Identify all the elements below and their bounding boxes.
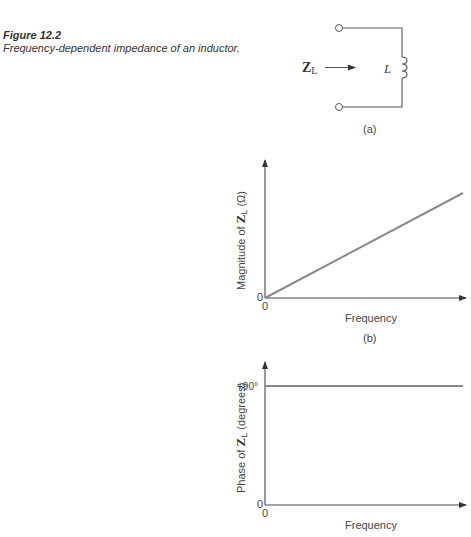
magnitude-line xyxy=(265,193,463,298)
y-axis-label: Phase of ZL (degrees) xyxy=(233,383,249,493)
x-origin-label: 0 xyxy=(262,300,268,312)
top-terminal-icon xyxy=(336,25,343,32)
figure-canvas: ZL L (a) 0 0 Frequency (b) Magnitude of … xyxy=(0,0,471,537)
panel-label-b: (b) xyxy=(363,332,376,344)
impedance-symbol: Z xyxy=(302,60,311,75)
inductor-coil-icon xyxy=(402,57,407,78)
panel-label-a: (a) xyxy=(363,123,376,135)
inductor-label: L xyxy=(383,61,391,76)
phase-chart: +90° 0 0 Frequency Phase of ZL (degrees) xyxy=(233,362,466,531)
x-axis-label: Frequency xyxy=(345,519,397,531)
bottom-terminal-icon xyxy=(336,104,343,111)
inductor-circuit: ZL L (a) xyxy=(302,25,407,136)
magnitude-chart: 0 0 Frequency (b) Magnitude of ZL (Ω) xyxy=(233,160,466,344)
x-origin-label: 0 xyxy=(262,507,268,519)
y-axis-label: Magnitude of ZL (Ω) xyxy=(233,191,249,290)
impedance-subscript: L xyxy=(311,65,317,76)
x-axis-label: Frequency xyxy=(345,312,397,324)
svg-text:ZL: ZL xyxy=(302,60,317,76)
